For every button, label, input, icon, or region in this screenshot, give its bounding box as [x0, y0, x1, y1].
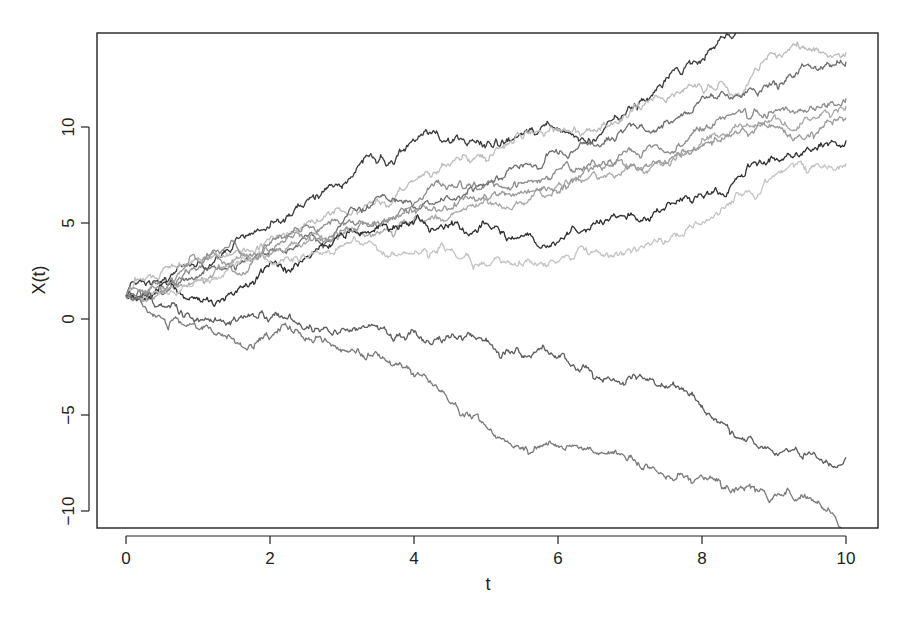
sample-path-line	[126, 140, 846, 306]
y-tick-label: 0	[59, 314, 78, 323]
y-tick-label: −5	[59, 405, 78, 424]
sample-path-line	[126, 106, 846, 303]
sample-path-line	[126, 0, 846, 296]
line-chart: 0246810 −10−50510 t X(t)	[0, 0, 910, 623]
sample-path-line	[126, 161, 846, 301]
plot-frame	[97, 33, 878, 528]
sample-path-line	[126, 117, 846, 296]
x-tick-label: 6	[553, 549, 562, 568]
x-tick-label: 10	[837, 549, 856, 568]
x-tick-label: 2	[265, 549, 274, 568]
y-tick-label: 10	[59, 118, 78, 137]
x-tick-label: 0	[121, 549, 130, 568]
x-axis-title: t	[485, 574, 490, 594]
x-tick-label: 4	[409, 549, 418, 568]
sample-path-line	[126, 42, 846, 296]
x-axis: 0246810	[121, 536, 855, 568]
sample-path-line	[126, 296, 846, 530]
sample-paths	[126, 0, 846, 530]
y-axis: −10−50510	[59, 118, 89, 526]
y-tick-label: 5	[59, 218, 78, 227]
x-tick-label: 8	[697, 549, 706, 568]
y-axis-title: X(t)	[29, 266, 49, 295]
y-tick-label: −10	[59, 497, 78, 526]
sample-path-line	[126, 292, 846, 468]
